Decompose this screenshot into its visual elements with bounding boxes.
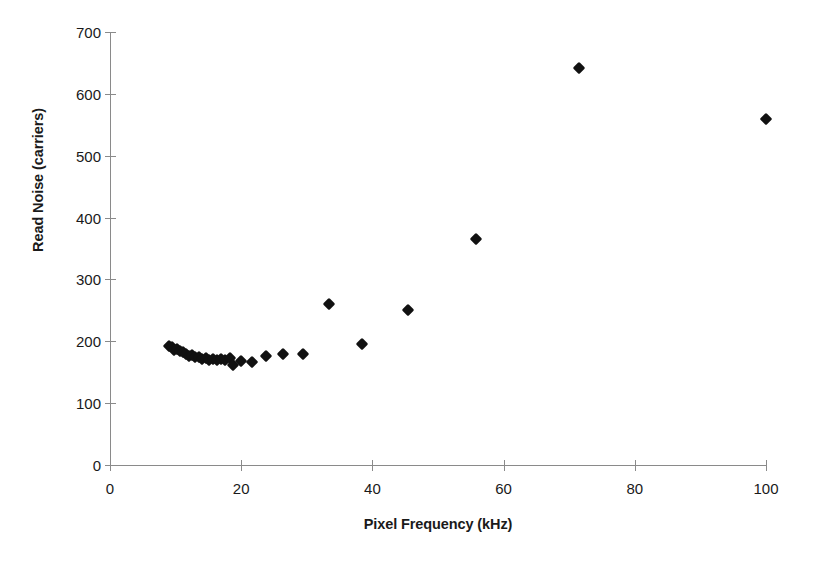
x-tick-80 xyxy=(635,460,636,471)
y-tick-label-600: 600 xyxy=(76,85,101,102)
data-point xyxy=(401,304,414,317)
y-axis-title: Read Noise (carriers) xyxy=(30,50,46,310)
y-tick-label-300: 300 xyxy=(76,271,101,288)
x-tick-label-0: 0 xyxy=(106,480,114,497)
data-point xyxy=(260,350,273,363)
y-tick-700 xyxy=(105,32,116,33)
data-point xyxy=(276,347,289,360)
y-tick-100 xyxy=(105,403,116,404)
x-axis-title: Pixel Frequency (kHz) xyxy=(110,516,766,532)
data-point xyxy=(323,298,336,311)
x-tick-40 xyxy=(372,460,373,471)
data-point xyxy=(760,112,773,125)
y-tick-600 xyxy=(105,94,116,95)
data-point xyxy=(573,62,586,75)
y-tick-label-700: 700 xyxy=(76,24,101,41)
y-tick-label-200: 200 xyxy=(76,333,101,350)
y-tick-500 xyxy=(105,156,116,157)
y-tick-label-100: 100 xyxy=(76,395,101,412)
x-tick-100 xyxy=(766,460,767,471)
scatter-chart-figure: Read Noise (carriers) 010020030040050060… xyxy=(0,0,821,567)
x-tick-label-100: 100 xyxy=(753,480,778,497)
y-tick-300 xyxy=(105,279,116,280)
y-tick-label-500: 500 xyxy=(76,147,101,164)
y-axis-line xyxy=(110,32,111,466)
x-tick-label-40: 40 xyxy=(364,480,381,497)
x-tick-label-20: 20 xyxy=(233,480,250,497)
x-tick-60 xyxy=(504,460,505,471)
y-tick-400 xyxy=(105,218,116,219)
x-axis-line xyxy=(110,465,766,466)
y-tick-label-0: 0 xyxy=(93,457,101,474)
x-tick-20 xyxy=(241,460,242,471)
x-tick-0 xyxy=(110,460,111,471)
data-point xyxy=(470,232,483,245)
x-tick-label-80: 80 xyxy=(626,480,643,497)
plot-area: 0100200300400500600700 020406080100 xyxy=(110,32,766,465)
y-tick-200 xyxy=(105,341,116,342)
y-tick-label-400: 400 xyxy=(76,209,101,226)
data-point xyxy=(245,355,258,368)
x-tick-label-60: 60 xyxy=(495,480,512,497)
data-point xyxy=(356,337,369,350)
data-point xyxy=(296,348,309,361)
